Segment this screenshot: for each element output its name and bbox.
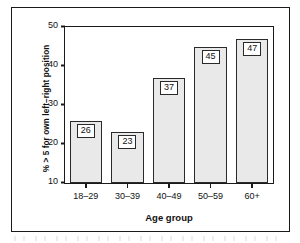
- y-tick-label: 40: [48, 59, 58, 69]
- bar-30–39[interactable]: 23: [111, 132, 143, 183]
- x-axis-title: Age group: [64, 212, 274, 223]
- bar-18–29[interactable]: 26: [70, 121, 102, 183]
- y-axis-title: % > 5 for own left–right position: [42, 29, 51, 189]
- x-tick-mark: [85, 183, 87, 188]
- figure-frame: % > 5 for own left–right position 102030…: [11, 7, 290, 232]
- bar-value-label: 23: [118, 135, 136, 149]
- y-tick-label: 20: [48, 137, 58, 147]
- bar-50–59[interactable]: 45: [194, 47, 226, 184]
- bar-rect: [236, 39, 268, 183]
- x-tick-mark: [251, 183, 253, 188]
- plot-area: 1020304050 2623374547 18–2930–3940–4950–…: [64, 26, 274, 184]
- bar-value-label: 47: [243, 42, 261, 56]
- x-tick-mark: [127, 183, 129, 188]
- y-tick-label: 10: [48, 176, 58, 186]
- x-tick-label: 30–39: [115, 191, 140, 201]
- x-tick-label: 50–59: [198, 191, 223, 201]
- x-tick-label: 60+: [245, 191, 260, 201]
- x-tick-mark: [168, 183, 170, 188]
- x-tick-mark: [210, 183, 212, 188]
- bar-rect: [194, 47, 226, 184]
- bar-value-label: 26: [77, 124, 95, 138]
- bar-value-label: 37: [160, 81, 178, 95]
- bar-40–49[interactable]: 37: [153, 78, 185, 183]
- bar-value-label: 45: [202, 50, 220, 64]
- bars-layer: 2623374547: [65, 27, 273, 183]
- y-tick-label: 30: [48, 98, 58, 108]
- bar-60+[interactable]: 47: [236, 39, 268, 183]
- x-tick-label: 18–29: [73, 191, 98, 201]
- y-tick-label: 50: [48, 20, 58, 30]
- x-tick-label: 40–49: [156, 191, 181, 201]
- scan-artifact: [14, 236, 286, 241]
